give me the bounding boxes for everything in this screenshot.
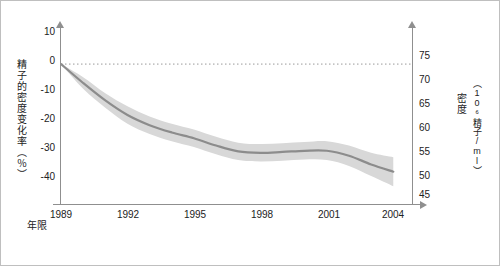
y-tick-right-6: 45 bbox=[419, 189, 453, 200]
y-tick-right-1: 70 bbox=[419, 74, 453, 85]
y-tick-right-0: 75 bbox=[419, 50, 453, 61]
x-tick-3: 1998 bbox=[237, 209, 287, 220]
y-tick-left-0: 10 bbox=[21, 26, 55, 37]
chart-svg bbox=[61, 35, 411, 195]
plot-area bbox=[61, 35, 411, 195]
x-axis-line bbox=[53, 204, 421, 205]
y-axis-right-title: 密度 bbox=[453, 93, 468, 115]
y-tick-right-4: 55 bbox=[419, 146, 453, 157]
x-axis-arrow-icon bbox=[420, 201, 427, 209]
x-tick-1: 1992 bbox=[103, 209, 153, 220]
x-tick-5: 2004 bbox=[368, 209, 418, 220]
y-tick-right-3: 60 bbox=[419, 122, 453, 133]
y-axis-left-title: 精子的密度变化率（％） bbox=[13, 59, 28, 180]
x-tick-4: 2001 bbox=[304, 209, 354, 220]
y-axis-right-unit: （10⁶精子/ml） bbox=[471, 79, 484, 175]
chart-figure: 10 0 -10 -20 -30 -40 75 70 65 60 55 50 4… bbox=[0, 0, 500, 266]
x-axis-title: 年限 bbox=[27, 217, 47, 232]
x-tick-2: 1995 bbox=[170, 209, 220, 220]
y-axis-right-arrow-icon bbox=[408, 21, 416, 28]
y-axis-left-arrow-icon bbox=[56, 21, 64, 28]
y-tick-right-5: 50 bbox=[419, 170, 453, 181]
y-tick-right-2: 65 bbox=[419, 98, 453, 109]
y-axis-right-line bbox=[412, 27, 413, 205]
confidence-band bbox=[61, 64, 393, 186]
